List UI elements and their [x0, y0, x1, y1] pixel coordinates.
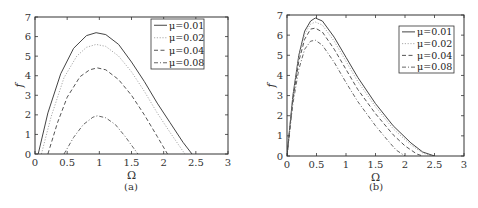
chart-panel-b: 00.511.522.5301234567Ωfμ=0.01μ=0.02μ=0.0… [265, 10, 467, 185]
series-line-3 [64, 116, 138, 154]
x-tick-label: 0 [32, 157, 38, 168]
caption-a: (a) [124, 181, 138, 192]
legend-entry-label: μ=0.08 [169, 57, 204, 68]
y-tick-label: 7 [277, 10, 283, 21]
y-tick-label: 2 [277, 110, 283, 121]
series-line-2 [48, 68, 168, 154]
y-axis-title: f [13, 82, 26, 89]
y-tick-label: 4 [277, 70, 283, 81]
x-tick-label: 1.5 [368, 159, 384, 170]
x-tick-label: 0.5 [309, 159, 325, 170]
chart-panel-a: 00.511.522.5301234567Ωfμ=0.01μ=0.02μ=0.0… [13, 12, 231, 183]
y-tick-label: 6 [277, 30, 283, 41]
y-tick-label: 0 [25, 149, 31, 160]
x-tick-label: 2.5 [188, 157, 204, 168]
legend-entry-label: μ=0.02 [169, 32, 204, 43]
caption-b: (b) [369, 181, 383, 192]
legend-entry-label: μ=0.01 [169, 20, 204, 31]
x-tick-label: 3 [225, 157, 231, 168]
y-tick-label: 5 [277, 50, 283, 61]
x-tick-label: 2.5 [427, 159, 443, 170]
legend-entry-label: μ=0.08 [417, 61, 452, 72]
legend-entry-label: μ=0.04 [169, 45, 204, 56]
x-tick-label: 2 [160, 157, 166, 168]
y-tick-label: 3 [25, 90, 31, 101]
figure: 00.511.522.5301234567Ωfμ=0.01μ=0.02μ=0.0… [0, 0, 478, 208]
x-tick-label: 2 [402, 159, 408, 170]
x-tick-label: 1 [96, 157, 102, 168]
y-tick-label: 1 [25, 129, 31, 140]
y-tick-label: 4 [25, 70, 31, 81]
legend: μ=0.01μ=0.02μ=0.04μ=0.08 [151, 19, 204, 69]
y-tick-label: 0 [277, 151, 283, 162]
y-tick-label: 7 [25, 12, 31, 23]
x-tick-label: 0 [284, 159, 290, 170]
legend-entry-label: μ=0.02 [417, 38, 452, 49]
x-tick-label: 1.5 [124, 157, 140, 168]
legend-entry-label: μ=0.01 [417, 26, 452, 37]
y-tick-label: 1 [277, 130, 283, 141]
y-tick-label: 6 [25, 31, 31, 42]
x-tick-label: 1 [343, 159, 349, 170]
x-tick-label: 3 [461, 159, 467, 170]
legend-entry-label: μ=0.04 [417, 50, 452, 61]
y-tick-label: 3 [277, 90, 283, 101]
y-tick-label: 5 [25, 51, 31, 62]
y-tick-label: 2 [25, 109, 31, 120]
x-tick-label: 0.5 [59, 157, 75, 168]
y-axis-title: f [265, 82, 278, 89]
legend: μ=0.01μ=0.02μ=0.04μ=0.08 [399, 26, 454, 73]
